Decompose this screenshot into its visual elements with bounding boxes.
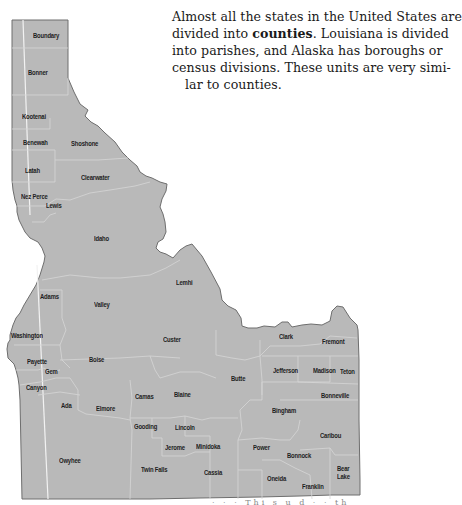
county-label-custer: Custer: [163, 336, 181, 343]
county-label-washington: Washington: [11, 332, 43, 339]
text-run: lar to counties.: [185, 77, 282, 92]
county-label-gem: Gem: [45, 368, 58, 375]
county-label-lake: Lake: [337, 473, 350, 480]
county-label-blaine: Blaine: [174, 391, 191, 398]
county-label-gooding: Gooding: [134, 423, 157, 430]
county-label-jerome: Jerome: [165, 444, 185, 451]
county-label-fremont: Fremont: [322, 338, 344, 345]
text-run: divided into: [172, 26, 252, 41]
county-label-latah: Latah: [25, 167, 40, 174]
county-label-bonneville: Bonneville: [321, 392, 349, 399]
county-label-caribou: Caribou: [320, 432, 341, 439]
county-label-ada: Ada: [61, 402, 72, 409]
county-label-canyon: Canyon: [26, 384, 47, 391]
county-label-kootenai: Kootenai: [22, 113, 46, 120]
county-label-lemhi: Lemhi: [176, 279, 193, 286]
text-run: Almost all the states in the United Stat…: [172, 9, 462, 24]
text-run: census divisions. These units are very s…: [172, 60, 451, 75]
county-label-valley: Valley: [94, 301, 110, 308]
county-label-franklin: Franklin: [302, 483, 324, 490]
county-label-adams: Adams: [40, 293, 59, 300]
county-label-lincoln: Lincoln: [175, 424, 195, 431]
county-label-benewah: Benewah: [23, 139, 48, 146]
county-label-bonnock: Bonnock: [287, 452, 311, 459]
county-label-butte: Butte: [231, 375, 245, 382]
county-label-boise: Boise: [89, 356, 104, 363]
paragraph-intro-line-5: lar to counties.: [185, 76, 282, 93]
paragraph-intro-line-1: Almost all the states in the United Stat…: [172, 8, 462, 25]
paragraph-intro-line-3: into parishes, and Alaska has boroughs o…: [172, 42, 443, 59]
county-label-jefferson: Jefferson: [273, 367, 298, 374]
county-label-payette: Payette: [27, 358, 47, 365]
text-run: into parishes, and Alaska has boroughs o…: [172, 43, 443, 58]
county-label-boundary: Boundary: [33, 32, 59, 39]
county-label-madison: Madison: [313, 367, 336, 374]
county-label-elmore: Elmore: [96, 405, 115, 412]
paragraph-intro-line-4: census divisions. These units are very s…: [172, 59, 451, 76]
county-label-cassia: Cassia: [204, 469, 222, 476]
county-label-nez-perce: Nez Perce: [21, 193, 48, 200]
text-run: . Louisiana is divided: [313, 26, 449, 41]
county-label-idaho: Idaho: [94, 235, 109, 242]
county-label-clark: Clark: [279, 333, 293, 340]
term-counties-bold: counties: [252, 26, 313, 41]
paragraph-intro-line-2: divided into counties. Louisiana is divi…: [172, 25, 449, 42]
county-label-shoshone: Shoshone: [71, 140, 98, 147]
county-label-power: Power: [253, 444, 270, 451]
county-label-teton: Teton: [340, 368, 355, 375]
county-label-camas: Camas: [135, 393, 154, 400]
county-label-lewis: Lewis: [46, 202, 62, 209]
county-label-twin-falls: Twin Falls: [141, 466, 167, 473]
county-label-minidoka: Minidoka: [196, 443, 220, 450]
county-label-bingham: Bingham: [272, 407, 296, 414]
county-label-bonner: Bonner: [28, 69, 48, 76]
county-label-oneida: Oneida: [267, 475, 286, 482]
county-label-owyhee: Owyhee: [59, 457, 81, 464]
county-label-clearwater: Clearwater: [81, 174, 110, 181]
cutoff-caption: · · · Thi s u d · · th: [212, 498, 349, 505]
